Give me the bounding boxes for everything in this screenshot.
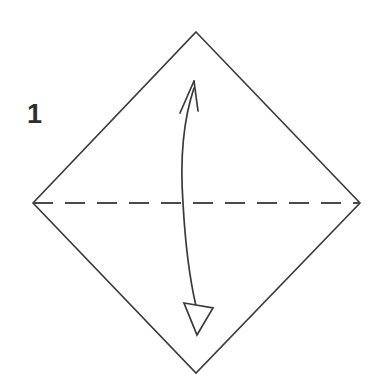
- origami-diagram-svg: 1: [0, 0, 386, 386]
- canvas-background: [0, 0, 386, 386]
- origami-diagram-canvas: 1: [0, 0, 386, 386]
- step-number-label: 1: [27, 99, 42, 129]
